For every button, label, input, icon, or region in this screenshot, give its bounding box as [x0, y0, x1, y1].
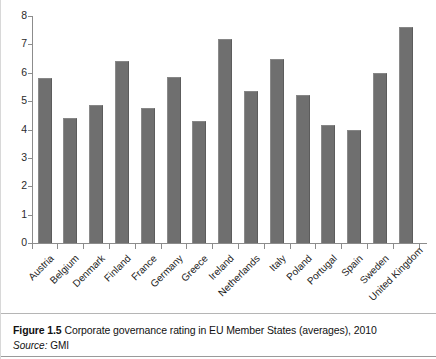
caption-source-line: Source: GMI — [13, 339, 425, 353]
x-tick-mark — [238, 244, 239, 249]
x-tick-mark — [161, 244, 162, 249]
figure-container: 012345678 AustriaBelgiumDenmarkFinlandFr… — [0, 0, 436, 359]
x-tick-mark — [290, 244, 291, 249]
figure-bottom-border — [1, 356, 436, 357]
x-tick-mark — [109, 244, 110, 249]
bar-germany — [167, 77, 181, 243]
x-tick-mark-origin — [32, 244, 33, 249]
bar-portugal — [321, 125, 335, 243]
bar-ireland — [218, 39, 232, 243]
y-tick-label: 7 — [21, 37, 27, 50]
y-axis-line — [32, 16, 33, 244]
source-label: Source: — [13, 340, 47, 351]
y-tick-mark — [28, 215, 32, 216]
x-tick-mark — [264, 244, 265, 249]
y-tick-label: 4 — [21, 123, 27, 136]
x-tick-mark — [315, 244, 316, 249]
y-tick-label: 3 — [21, 151, 27, 164]
figure-caption: Figure 1.5 Corporate governance rating i… — [1, 314, 436, 358]
caption-title-line: Figure 1.5 Corporate governance rating i… — [13, 323, 425, 337]
y-tick-mark — [28, 16, 32, 17]
x-tick-mark — [186, 244, 187, 249]
x-tick-mark — [57, 244, 58, 249]
bar-austria — [38, 78, 52, 243]
y-tick-mark — [28, 44, 32, 45]
bar-france — [141, 108, 155, 243]
y-tick-mark — [28, 186, 32, 187]
bar-poland — [296, 95, 310, 243]
bar-sweden — [373, 73, 387, 243]
y-tick-label: 6 — [21, 66, 27, 79]
x-tick-mark — [83, 244, 84, 249]
source-value: GMI — [50, 340, 69, 351]
y-tick-mark — [28, 101, 32, 102]
x-tick-mark — [367, 244, 368, 249]
x-tick-mark — [393, 244, 394, 249]
figure-caption-text: Corporate governance rating in EU Member… — [64, 324, 376, 336]
y-tick-mark — [28, 73, 32, 74]
y-tick-label: 0 — [21, 236, 27, 249]
bar-italy — [270, 59, 284, 243]
y-tick-mark — [28, 158, 32, 159]
plot-area: 012345678 AustriaBelgiumDenmarkFinlandFr… — [32, 16, 426, 243]
x-tick-mark — [135, 244, 136, 249]
bar-belgium — [63, 118, 77, 243]
bar-finland — [115, 61, 129, 243]
bar-netherlands — [244, 91, 258, 243]
x-tick-mark — [212, 244, 213, 249]
y-tick-label: 2 — [21, 179, 27, 192]
y-tick-label: 5 — [21, 94, 27, 107]
x-tick-mark — [341, 244, 342, 249]
bar-greece — [192, 121, 206, 243]
figure-number: Figure 1.5 — [13, 324, 62, 336]
y-tick-label: 8 — [21, 9, 27, 22]
bar-spain — [347, 130, 361, 244]
y-tick-label: 1 — [21, 208, 27, 221]
y-tick-mark — [28, 130, 32, 131]
bar-chart: 012345678 AustriaBelgiumDenmarkFinlandFr… — [1, 0, 436, 313]
bar-denmark — [89, 105, 103, 243]
bar-united-kingdom — [399, 27, 413, 243]
